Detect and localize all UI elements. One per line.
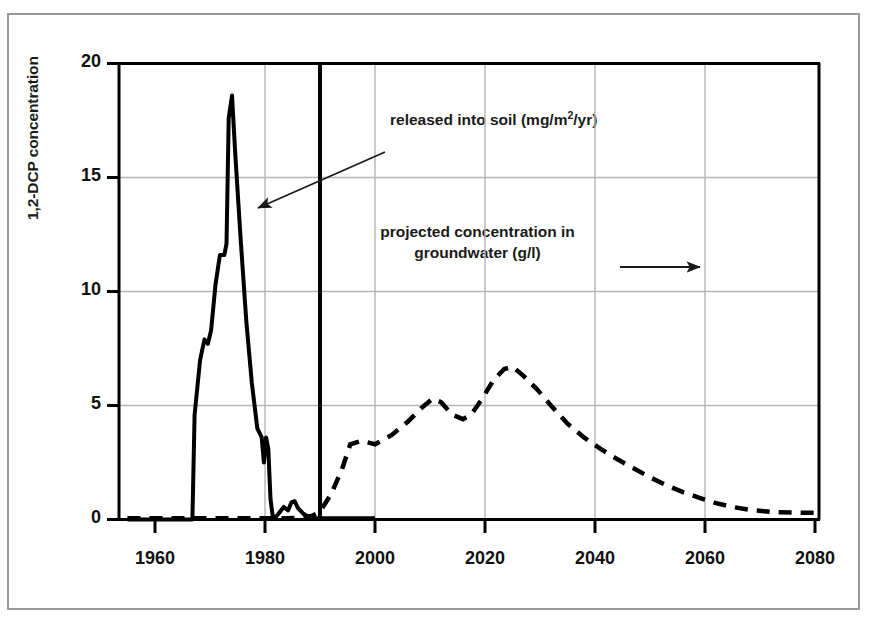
- y-axis-title-container: 1,2-DCP concentration: [14, 70, 38, 530]
- annotation-arrow-released-into-soil: [258, 152, 385, 208]
- axis-ticks: [107, 64, 815, 534]
- y-axis-title: 1,2-DCP concentration: [24, 0, 42, 220]
- x-tick-label-2080: 2080: [780, 548, 850, 569]
- axes-frame: [118, 62, 820, 520]
- x-tick-label-2000: 2000: [340, 548, 410, 569]
- x-tick-label-1960: 1960: [120, 548, 190, 569]
- x-tick-label-2060: 2060: [670, 548, 740, 569]
- annotation-released-into-soil: released into soil (mg/m2/yr): [390, 108, 597, 131]
- y-tick-label-5: 5: [55, 393, 101, 414]
- plot-area: [0, 0, 875, 632]
- x-tick-label-2020: 2020: [450, 548, 520, 569]
- annotation-released-into-soil-text: released into soil (mg/m2/yr): [390, 111, 597, 128]
- series-projected-groundwater-line: [128, 367, 816, 519]
- annotation-projected-groundwater-line2: groundwater (g/l): [414, 244, 541, 261]
- gridlines: [118, 63, 820, 520]
- x-tick-label-1980: 1980: [230, 548, 300, 569]
- x-tick-label-2040: 2040: [560, 548, 630, 569]
- series-released-into-soil-line: [128, 95, 376, 519]
- y-tick-label-0: 0: [55, 507, 101, 528]
- annotation-projected-groundwater-line1: projected concentration in: [380, 223, 575, 240]
- y-tick-label-10: 10: [55, 279, 101, 300]
- y-tick-label-15: 15: [55, 165, 101, 186]
- y-tick-label-20: 20: [55, 51, 101, 72]
- annotation-projected-groundwater: projected concentration ingroundwater (g…: [355, 221, 600, 264]
- chart-figure: 1,2-DCP concentration 20 15 10 5 0 1960 …: [0, 0, 875, 632]
